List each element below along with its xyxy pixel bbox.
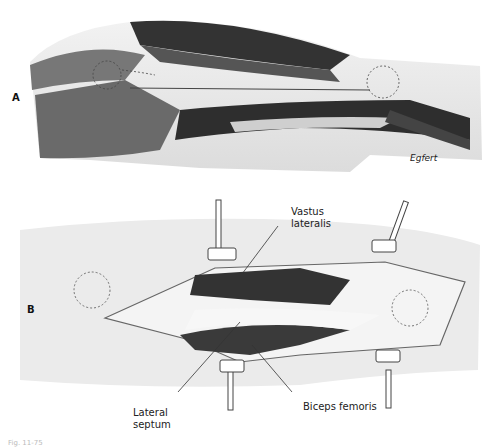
panel-a-label: A bbox=[12, 92, 20, 103]
figure-caption: Fig. 11-75 bbox=[8, 439, 43, 447]
label-line: lateralis bbox=[291, 218, 331, 230]
panel-a-thigh bbox=[30, 21, 482, 172]
panel-b-incision bbox=[20, 200, 480, 410]
label-vastus-lateralis: Vastus lateralis bbox=[291, 206, 331, 230]
panel-b-label: B bbox=[27, 304, 35, 315]
label-line: Lateral bbox=[133, 407, 171, 419]
label-lateral-septum: Lateral septum bbox=[133, 407, 171, 431]
label-line: Vastus bbox=[291, 206, 331, 218]
label-biceps-femoris: Biceps femoris bbox=[303, 401, 377, 413]
artist-signature: Egfert bbox=[410, 152, 437, 164]
label-line: septum bbox=[133, 419, 171, 431]
